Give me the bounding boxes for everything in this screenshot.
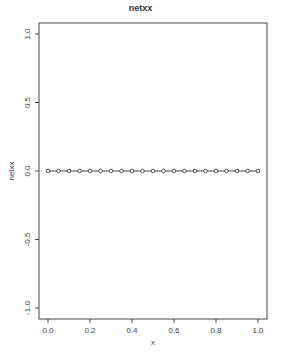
data-point-marker xyxy=(67,169,71,173)
data-point-marker xyxy=(193,169,197,173)
x-tick-label: 0.0 xyxy=(42,326,54,335)
x-tick-label: 0.6 xyxy=(168,326,180,335)
data-point-marker xyxy=(235,169,239,173)
y-tick-label: -1.0 xyxy=(23,301,32,315)
data-point-marker xyxy=(99,169,103,173)
x-tick-label: 0.2 xyxy=(84,326,96,335)
y-axis: -1.0-0.50.00.51.0 xyxy=(23,28,39,315)
data-series xyxy=(46,169,260,173)
data-point-marker xyxy=(256,169,260,173)
data-point-marker xyxy=(151,169,155,173)
data-point-marker xyxy=(57,169,61,173)
data-point-marker xyxy=(246,169,250,173)
y-tick-label: -0.5 xyxy=(23,232,32,246)
data-point-marker xyxy=(162,169,166,173)
data-point-marker xyxy=(46,169,50,173)
data-point-marker xyxy=(130,169,134,173)
x-axis-label: x xyxy=(151,338,155,347)
x-tick-label: 0.8 xyxy=(210,326,222,335)
data-point-marker xyxy=(225,169,229,173)
data-point-marker xyxy=(183,169,187,173)
data-point-marker xyxy=(88,169,92,173)
data-point-marker xyxy=(172,169,176,173)
x-tick-label: 0.4 xyxy=(126,326,138,335)
y-tick-label: 0.0 xyxy=(23,165,32,177)
y-axis-label: netxx xyxy=(7,161,16,180)
data-point-marker xyxy=(214,169,218,173)
x-tick-label: 1.0 xyxy=(252,326,264,335)
data-point-marker xyxy=(120,169,124,173)
chart-plot-area: -1.0-0.50.00.51.0 0.00.20.40.60.81.0 x n… xyxy=(0,0,281,353)
y-tick-label: 1.0 xyxy=(23,28,32,40)
data-point-marker xyxy=(109,169,113,173)
data-point-marker xyxy=(78,169,82,173)
x-axis: 0.00.20.40.60.81.0 xyxy=(42,319,264,335)
data-point-marker xyxy=(204,169,208,173)
y-tick-label: 0.5 xyxy=(23,96,32,108)
data-point-marker xyxy=(141,169,145,173)
